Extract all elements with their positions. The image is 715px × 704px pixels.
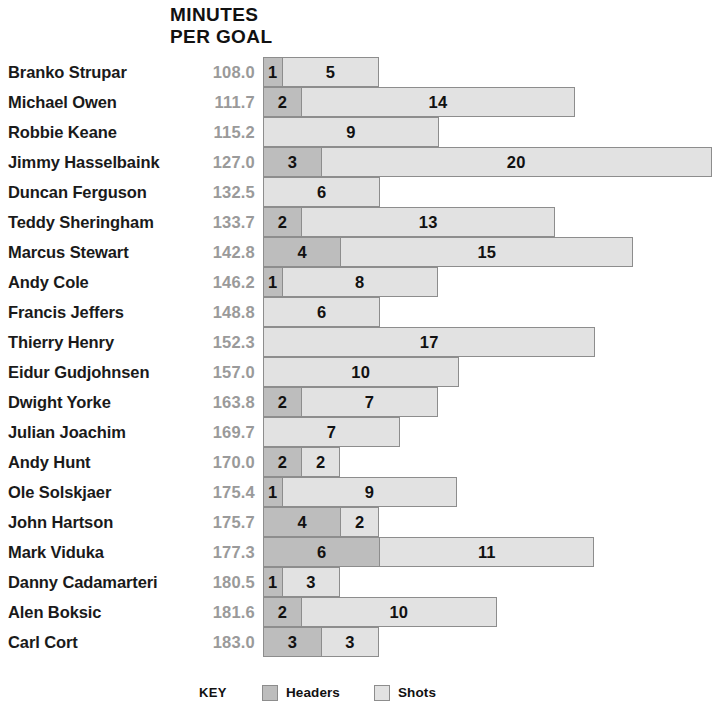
minutes-per-goal-value: 177.3 bbox=[150, 537, 255, 567]
bar-segment-label: 7 bbox=[365, 394, 374, 411]
stacked-bar: 17 bbox=[263, 327, 595, 357]
bar-segment-shots: 15 bbox=[340, 237, 633, 267]
chart-row: Jimmy Hasselbaink127.0320 bbox=[0, 147, 715, 177]
minutes-per-goal-value: 115.2 bbox=[150, 117, 255, 147]
bar-segment-shots: 9 bbox=[263, 117, 439, 147]
bar-segment-headers: 4 bbox=[263, 237, 341, 267]
bar-segment-shots: 7 bbox=[263, 417, 400, 447]
chart-row: Carl Cort183.033 bbox=[0, 627, 715, 657]
bar-segment-headers: 2 bbox=[263, 87, 302, 117]
chart-row: Andy Hunt170.022 bbox=[0, 447, 715, 477]
bar-segment-label: 6 bbox=[317, 544, 326, 561]
legend-key-label: KEY bbox=[199, 684, 227, 702]
stacked-bar: 15 bbox=[263, 57, 379, 87]
chart-row: Thierry Henry152.317 bbox=[0, 327, 715, 357]
legend-item-headers: Headers bbox=[262, 684, 340, 702]
chart-row: Julian Joachim169.77 bbox=[0, 417, 715, 447]
minutes-per-goal-value: 180.5 bbox=[150, 567, 255, 597]
bar-segment-shots: 2 bbox=[301, 447, 340, 477]
bar-segment-label: 4 bbox=[297, 244, 306, 261]
bar-segment-label: 6 bbox=[317, 184, 326, 201]
legend-swatch-headers-icon bbox=[262, 685, 278, 701]
stacked-bar: 10 bbox=[263, 357, 459, 387]
chart-row: Ole Solskjaer175.419 bbox=[0, 477, 715, 507]
bar-segment-label: 3 bbox=[345, 634, 354, 651]
bar-segment-headers: 1 bbox=[263, 57, 283, 87]
minutes-per-goal-value: 181.6 bbox=[150, 597, 255, 627]
bar-segment-label: 9 bbox=[346, 124, 355, 141]
bar-segment-label: 1 bbox=[268, 484, 277, 501]
legend-label-shots: Shots bbox=[398, 684, 436, 702]
minutes-per-goal-value: 132.5 bbox=[150, 177, 255, 207]
bar-segment-shots: 10 bbox=[301, 597, 497, 627]
legend-swatch-shots-icon bbox=[374, 685, 390, 701]
minutes-per-goal-value: 146.2 bbox=[150, 267, 255, 297]
minutes-per-goal-value: 148.8 bbox=[150, 297, 255, 327]
bar-segment-label: 9 bbox=[365, 484, 374, 501]
stacked-bar: 214 bbox=[263, 87, 575, 117]
stacked-bar: 210 bbox=[263, 597, 497, 627]
chart-row: Francis Jeffers148.86 bbox=[0, 297, 715, 327]
chart-title-line-1: MINUTES bbox=[170, 4, 370, 26]
minutes-per-goal-value: 108.0 bbox=[150, 57, 255, 87]
bar-segment-label: 10 bbox=[389, 604, 408, 621]
minutes-per-goal-value: 157.0 bbox=[150, 357, 255, 387]
chart-title: MINUTES PER GOAL bbox=[170, 4, 370, 48]
bar-segment-label: 10 bbox=[351, 364, 370, 381]
chart-row: Eidur Gudjohnsen157.010 bbox=[0, 357, 715, 387]
minutes-per-goal-value: 175.4 bbox=[150, 477, 255, 507]
chart-row: Mark Viduka177.3611 bbox=[0, 537, 715, 567]
chart-row: Teddy Sheringham133.7213 bbox=[0, 207, 715, 237]
bar-segment-shots: 20 bbox=[321, 147, 712, 177]
minutes-per-goal-value: 183.0 bbox=[150, 627, 255, 657]
stacked-bar: 611 bbox=[263, 537, 594, 567]
chart-row: Marcus Stewart142.8415 bbox=[0, 237, 715, 267]
bar-segment-shots: 3 bbox=[321, 627, 380, 657]
bar-segment-headers: 2 bbox=[263, 597, 302, 627]
bar-segment-label: 6 bbox=[317, 304, 326, 321]
bar-segment-shots: 14 bbox=[301, 87, 575, 117]
stacked-bar: 7 bbox=[263, 417, 400, 447]
bar-segment-shots: 6 bbox=[263, 177, 380, 207]
bar-segment-label: 4 bbox=[297, 514, 306, 531]
stacked-bar: 18 bbox=[263, 267, 438, 297]
minutes-per-goal-value: 142.8 bbox=[150, 237, 255, 267]
bar-segment-label: 11 bbox=[478, 544, 496, 561]
bar-segment-shots: 11 bbox=[379, 537, 594, 567]
chart-row: Alen Boksic181.6210 bbox=[0, 597, 715, 627]
chart-row: Andy Cole146.218 bbox=[0, 267, 715, 297]
bar-segment-shots: 6 bbox=[263, 297, 380, 327]
bar-segment-label: 2 bbox=[355, 514, 364, 531]
bar-segment-headers: 1 bbox=[263, 477, 283, 507]
bar-segment-shots: 7 bbox=[301, 387, 438, 417]
bar-segment-label: 8 bbox=[355, 274, 364, 291]
stacked-bar: 415 bbox=[263, 237, 633, 267]
bar-segment-label: 14 bbox=[429, 94, 448, 111]
stacked-bar: 6 bbox=[263, 297, 380, 327]
bar-segment-label: 15 bbox=[477, 244, 496, 261]
bar-segment-label: 1 bbox=[268, 274, 277, 291]
bar-segment-headers: 2 bbox=[263, 387, 302, 417]
chart-row: Branko Strupar108.015 bbox=[0, 57, 715, 87]
legend-item-shots: Shots bbox=[374, 684, 436, 702]
chart-row: Michael Owen111.7214 bbox=[0, 87, 715, 117]
chart-row: Robbie Keane115.29 bbox=[0, 117, 715, 147]
stacked-bar: 42 bbox=[263, 507, 379, 537]
bar-segment-label: 17 bbox=[420, 334, 439, 351]
bar-segment-shots: 2 bbox=[340, 507, 379, 537]
chart-row: John Hartson175.742 bbox=[0, 507, 715, 537]
stacked-bar: 13 bbox=[263, 567, 340, 597]
minutes-per-goal-value: 127.0 bbox=[150, 147, 255, 177]
bar-segment-label: 1 bbox=[268, 64, 277, 81]
bar-segment-headers: 6 bbox=[263, 537, 380, 567]
stacked-bar: 320 bbox=[263, 147, 712, 177]
bar-segment-label: 2 bbox=[278, 94, 287, 111]
bar-segment-shots: 5 bbox=[282, 57, 380, 87]
bar-segment-shots: 9 bbox=[282, 477, 458, 507]
minutes-per-goal-value: 152.3 bbox=[150, 327, 255, 357]
bar-segment-headers: 1 bbox=[263, 267, 283, 297]
minutes-per-goal-value: 169.7 bbox=[150, 417, 255, 447]
bar-segment-label: 2 bbox=[278, 214, 287, 231]
bar-segment-label: 2 bbox=[278, 454, 287, 471]
bar-segment-shots: 10 bbox=[263, 357, 459, 387]
